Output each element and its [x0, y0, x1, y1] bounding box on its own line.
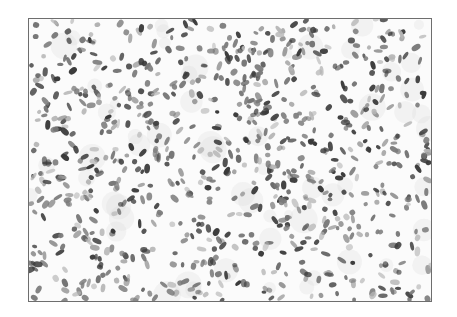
cell-nucleus — [374, 200, 380, 205]
cell-nucleus — [312, 127, 316, 134]
cell-nucleus — [68, 66, 79, 76]
cell-nucleus — [305, 236, 312, 240]
cell-nucleus — [132, 159, 138, 165]
cell-nucleus — [204, 185, 212, 191]
cell-nucleus — [125, 120, 131, 128]
cell-nucleus — [398, 260, 407, 266]
cell-nucleus — [216, 61, 224, 72]
cell-nucleus — [234, 54, 241, 63]
cell-nucleus — [197, 179, 204, 186]
cell-nucleus — [100, 65, 108, 72]
cell-nucleus — [147, 183, 153, 188]
cell-nucleus — [205, 224, 212, 233]
cell-nucleus — [124, 153, 129, 158]
cell-nucleus — [299, 162, 304, 169]
cell-nucleus — [335, 291, 340, 297]
cell-nucleus — [343, 60, 350, 65]
cell-nucleus — [350, 155, 359, 163]
cell-nucleus — [265, 152, 271, 157]
cell-nucleus — [268, 295, 275, 301]
cell-nucleus — [126, 63, 133, 70]
cell-nucleus — [290, 168, 297, 175]
cell-nucleus — [396, 231, 401, 237]
cell-nucleus — [363, 202, 369, 207]
cell-nucleus — [241, 59, 247, 67]
cell-nucleus — [78, 98, 87, 107]
cell-nucleus — [115, 19, 125, 29]
cell-nucleus — [310, 84, 317, 90]
cell-nucleus — [270, 269, 277, 275]
cell-nucleus — [253, 81, 262, 87]
cell-nucleus — [272, 193, 278, 199]
cell-nucleus — [154, 56, 162, 65]
cell-nucleus — [121, 165, 128, 174]
cell-nucleus — [42, 67, 48, 77]
cell-nucleus — [379, 126, 384, 133]
cell-nucleus — [32, 244, 38, 248]
cell-nucleus — [347, 146, 354, 153]
cell-nucleus — [139, 195, 145, 205]
cell-nucleus — [395, 287, 401, 290]
cell-nucleus — [59, 243, 66, 251]
cell-nucleus — [192, 154, 197, 160]
cell-nucleus — [366, 45, 372, 51]
cell-nucleus — [81, 294, 90, 301]
cell-nucleus — [171, 117, 180, 126]
cell-nucleus — [369, 69, 376, 76]
cell-nucleus — [327, 224, 337, 230]
cell-nucleus — [130, 254, 135, 263]
cell-nucleus — [342, 212, 351, 221]
cell-nucleus — [235, 147, 241, 153]
histology-micrograph — [29, 19, 431, 301]
cell-nucleus — [199, 168, 207, 176]
cell-nucleus — [270, 35, 275, 43]
cell-nucleus — [328, 132, 335, 139]
cell-nucleus — [269, 201, 276, 209]
cell-nucleus — [209, 269, 214, 278]
cell-nucleus — [414, 194, 420, 204]
cell-nucleus — [361, 191, 370, 197]
cell-nucleus — [232, 78, 241, 87]
cell-nucleus — [281, 180, 286, 189]
cell-nucleus — [175, 126, 184, 136]
cell-nucleus — [89, 51, 98, 57]
cell-nucleus — [362, 138, 368, 144]
cell-nucleus — [200, 108, 209, 115]
cell-nucleus — [350, 215, 355, 224]
cell-nucleus — [388, 86, 394, 92]
cell-nucleus — [232, 38, 239, 48]
cell-nucleus — [289, 20, 299, 29]
cell-nucleus — [51, 115, 59, 122]
cell-nucleus — [65, 193, 74, 197]
cell-nucleus — [298, 259, 305, 265]
cell-nucleus — [420, 199, 429, 210]
cell-nucleus — [375, 144, 381, 150]
cell-nucleus — [206, 25, 215, 33]
cell-nucleus — [284, 59, 291, 66]
cell-nucleus — [381, 138, 390, 148]
cell-nucleus — [29, 62, 35, 68]
cell-nucleus — [297, 154, 306, 162]
cell-nucleus — [219, 297, 225, 301]
cell-nucleus — [33, 141, 40, 148]
cell-nucleus — [229, 67, 239, 77]
cell-nucleus — [377, 271, 386, 279]
cell-nucleus — [331, 158, 339, 162]
cell-nucleus — [336, 161, 344, 169]
cell-nucleus — [350, 129, 357, 136]
cell-nucleus — [215, 186, 221, 191]
cell-nucleus — [97, 256, 102, 262]
cell-nucleus — [196, 246, 207, 252]
cell-nucleus — [348, 166, 357, 176]
cell-nucleus — [177, 220, 183, 226]
cell-nucleus — [351, 80, 358, 87]
cell-nucleus — [283, 76, 291, 86]
cell-nucleus — [309, 293, 314, 299]
cell-nucleus — [386, 160, 393, 166]
cell-nucleus — [246, 103, 253, 109]
cell-nucleus — [119, 52, 125, 61]
cell-nucleus — [344, 275, 349, 281]
cell-nucleus — [283, 271, 289, 277]
cell-nucleus — [92, 59, 103, 65]
cell-nucleus — [290, 75, 298, 83]
